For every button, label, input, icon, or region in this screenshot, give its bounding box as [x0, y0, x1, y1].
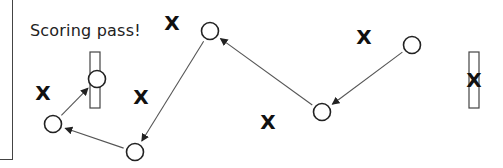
- attacker-circle-icon: [202, 23, 219, 40]
- defender-x-icon: X: [356, 25, 372, 49]
- defender-x-icon: X: [164, 11, 180, 35]
- play-diagram: XXXXXX: [0, 0, 503, 168]
- pass-arrow-4: [65, 128, 123, 148]
- attacker-circle-icon: [45, 116, 62, 133]
- pass-arrow-3: [142, 41, 204, 141]
- defender-x-icon: X: [35, 81, 51, 105]
- attacker-circle-icon: [127, 144, 144, 161]
- pass-arrow-1: [332, 52, 402, 104]
- attacker-circle-icon: [314, 104, 331, 121]
- pass-arrow-5: [61, 88, 88, 115]
- attacker-circle-icon: [404, 37, 421, 54]
- attacker-circle-icon: [89, 71, 106, 88]
- pass-arrow-2: [221, 39, 313, 105]
- defender-x-icon: X: [466, 68, 482, 92]
- defender-x-icon: X: [133, 85, 149, 109]
- defender-x-icon: X: [260, 110, 276, 134]
- pass-arrows: [61, 39, 402, 149]
